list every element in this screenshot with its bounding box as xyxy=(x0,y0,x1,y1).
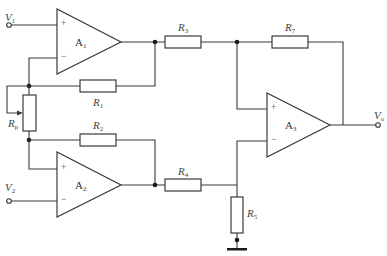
resistor-r3 xyxy=(165,36,201,48)
label-a3: A3 xyxy=(285,120,296,133)
potentiometer-rp xyxy=(23,95,36,131)
a2-plus-sign: + xyxy=(61,163,66,172)
resistor-r1 xyxy=(80,80,116,92)
a1-minus-sign: − xyxy=(61,52,66,61)
v2-input-wire xyxy=(7,199,57,204)
a3-plus-wire xyxy=(237,42,267,109)
label-rp: Rp xyxy=(8,118,18,131)
r1-feedback-wire xyxy=(116,42,155,86)
resistor-r7 xyxy=(272,36,308,48)
a3-minus-wire xyxy=(237,141,267,197)
label-v1: V1 xyxy=(5,12,15,25)
r7-feedback-wire xyxy=(308,42,343,125)
label-a1: A1 xyxy=(75,37,86,50)
label-r1: R1 xyxy=(93,97,103,110)
v2-terminal xyxy=(7,199,12,204)
wiper-arrow-icon xyxy=(17,111,23,116)
opamp-a2 xyxy=(57,152,121,217)
label-a2: A2 xyxy=(75,180,86,193)
resistor-r4 xyxy=(165,179,201,191)
label-r7: R7 xyxy=(285,22,295,35)
a3-minus-sign: − xyxy=(271,135,276,144)
circuit-diagram xyxy=(0,0,387,256)
r2-feedback-wire xyxy=(116,140,155,185)
a2-minus-sign: − xyxy=(61,195,66,204)
opamp-a3 xyxy=(267,93,330,157)
a1-minus-wire xyxy=(29,58,57,86)
label-vo: Vo xyxy=(374,110,384,123)
label-r5: R5 xyxy=(247,208,257,221)
opamp-a1 xyxy=(57,9,121,74)
label-r2: R2 xyxy=(93,120,103,133)
a3-plus-sign: + xyxy=(271,103,276,112)
vo-terminal xyxy=(376,123,381,128)
label-r4: R4 xyxy=(178,166,188,179)
resistor-r5 xyxy=(231,197,243,233)
a2-output-node xyxy=(153,183,158,188)
label-v2: V2 xyxy=(5,182,15,195)
ground-node xyxy=(235,238,240,243)
a1-plus-sign: + xyxy=(61,19,66,28)
resistor-r2 xyxy=(80,134,116,146)
label-r3: R3 xyxy=(178,22,188,35)
a2-plus-wire xyxy=(29,140,57,169)
ground-icon xyxy=(227,248,247,251)
